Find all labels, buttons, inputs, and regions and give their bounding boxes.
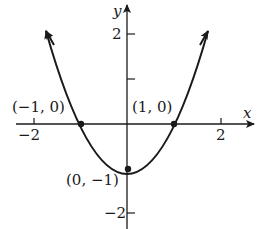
x-axis-label: x [243,106,251,121]
x-tick-label-neg2: −2 [18,128,40,143]
point-label-right: (1, 0) [132,100,172,115]
point-label-vertex: (0, −1) [66,173,119,188]
point-neg1-0 [78,121,84,127]
point-vertex [125,166,131,172]
x-tick-label-2: 2 [216,128,226,143]
y-tick-label-neg2: −2 [104,206,126,221]
point-label-left: (−1, 0) [12,100,65,115]
y-tick-label-2: 2 [112,27,122,42]
y-axis-label: y [113,4,121,19]
point-1-0 [171,121,177,127]
